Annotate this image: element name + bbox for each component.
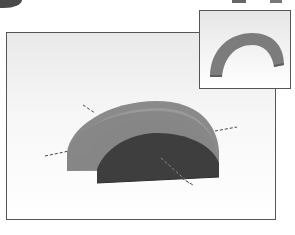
- arch-ring: [210, 33, 284, 77]
- page-corner-mark: [0, 0, 22, 8]
- page-top-mark: [232, 0, 246, 3]
- page-top-mark: [270, 0, 282, 3]
- axis-line: [215, 127, 237, 131]
- axis-line: [83, 105, 95, 113]
- inset-preview[interactable]: [199, 10, 291, 89]
- arch-ring-drawing: [200, 11, 292, 90]
- axis-line: [45, 151, 69, 156]
